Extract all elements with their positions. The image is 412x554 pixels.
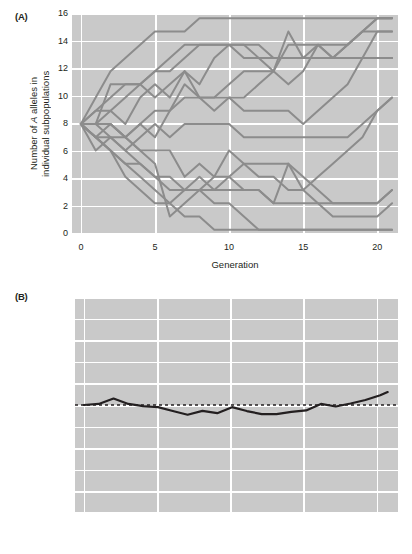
panel-a-trajectories: [72, 13, 398, 235]
panel-a-y-axis-title: Number of A alleles in individual subpop…: [16, 13, 42, 235]
panel-b: (B) Average allele frequency of A across…: [0, 280, 412, 554]
y-tick: 4: [63, 174, 68, 183]
trajectory-line: [81, 98, 392, 204]
panel-b-plot-area: [75, 297, 398, 513]
panel-a-x-axis-title: Generation: [72, 259, 398, 270]
panel-a-plot-area: [72, 13, 398, 235]
panel-b-label: (B): [15, 291, 28, 302]
average-frequency-line: [84, 392, 388, 415]
y-tick: 10: [58, 92, 68, 101]
x-tick: 20: [372, 243, 382, 252]
y-tick: 8: [63, 119, 68, 128]
y-tick: 2: [63, 202, 68, 211]
x-tick: 10: [224, 243, 234, 252]
trajectory-line: [81, 18, 392, 124]
y-tick: 6: [63, 147, 68, 156]
trajectory-line: [81, 18, 392, 124]
x-tick: 15: [298, 243, 308, 252]
y-tick: 12: [58, 64, 68, 73]
y-tick: 14: [58, 37, 68, 46]
panel-a-y-tick-labels: 16 14 12 10 8 6 4 2 0: [40, 13, 68, 235]
genetic-drift-figure: (A) Number of A alleles in individual su…: [0, 0, 412, 554]
x-tick: 5: [152, 243, 157, 252]
panel-a-x-tick-labels: 0 5 10 15 20: [72, 243, 398, 255]
x-tick: 0: [78, 243, 83, 252]
y-tick: 16: [58, 9, 68, 18]
panel-a: (A) Number of A alleles in individual su…: [0, 0, 412, 280]
y-tick: 0: [63, 229, 68, 238]
panel-b-average-frequency-curve: [75, 297, 398, 513]
